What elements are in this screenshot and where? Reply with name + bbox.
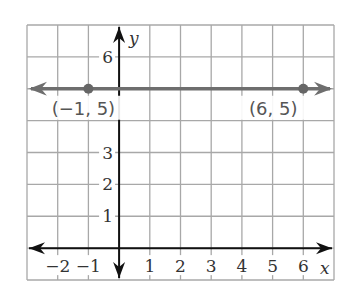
- x-axis-label: x: [320, 258, 330, 278]
- x-tick-label: 4: [236, 256, 247, 276]
- y-tick-label: 6: [102, 47, 113, 67]
- x-tick-label: 5: [267, 256, 278, 276]
- x-tick-label: 6: [298, 256, 309, 276]
- grid-lines: [27, 25, 334, 280]
- x-tick-label: −2: [45, 256, 70, 276]
- data-point-dot: [298, 84, 308, 94]
- point-label: (−1, 5): [52, 98, 115, 119]
- y-axis-label: y: [128, 28, 139, 48]
- x-tick-label: 2: [175, 256, 186, 276]
- y-tick-label: 2: [102, 174, 113, 194]
- x-tick-label: 1: [144, 256, 155, 276]
- x-tick-label: 3: [206, 256, 217, 276]
- y-tick-label: 1: [102, 206, 113, 226]
- point-label: (6, 5): [249, 98, 297, 119]
- x-tick-label: −1: [76, 256, 101, 276]
- coordinate-plane: −2−11234561236 (−1, 5)(6, 5) xy: [0, 0, 351, 306]
- y-tick-label: 3: [102, 143, 113, 163]
- data-point-dot: [83, 84, 93, 94]
